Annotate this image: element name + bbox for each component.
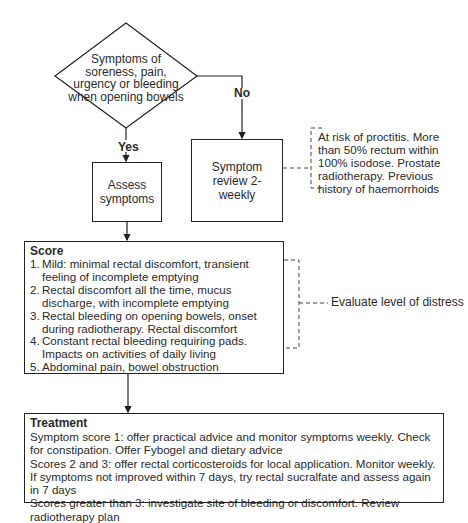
yes-label: Yes <box>118 140 139 154</box>
score-panel: Score 1. Mild: minimal rectal discomfort… <box>24 241 284 374</box>
treatment-line-3: Scores greater than 3: investigate site … <box>30 496 438 523</box>
score-item-4: 4. Constant rectal bleeding requiring pa… <box>30 335 278 361</box>
assess-symptoms-box: Assess symptoms <box>92 162 162 222</box>
treatment-line-2: Scores 2 and 3: offer rectal corticoster… <box>30 457 438 497</box>
score-item-2: 2. Rectal discomfort all the time, mucus… <box>30 284 278 310</box>
score-title: Score <box>30 244 278 258</box>
treatment-title: Treatment <box>30 416 438 430</box>
assess-symptoms-text: Assess symptoms <box>99 178 155 206</box>
risk-note: At risk of proctitis. More than 50% rect… <box>318 130 442 195</box>
decision-text: Symptoms of soreness, pain, urgency or b… <box>64 53 188 103</box>
distress-note: Evaluate level of distress <box>331 296 464 309</box>
treatment-panel: Treatment Symptom score 1: offer practic… <box>24 413 444 503</box>
score-item-1: 1. Mild: minimal rectal discomfort, tran… <box>30 258 278 284</box>
no-label: No <box>234 86 250 100</box>
symptom-review-box: Symptom review 2-weekly <box>191 139 283 222</box>
treatment-line-1: Symptom score 1: offer practical advice … <box>30 430 438 457</box>
symptom-review-text: Symptom review 2-weekly <box>196 160 278 202</box>
score-item-5: 5. Abdominal pain, bowel obstruction <box>30 361 278 374</box>
score-item-3: 3. Rectal bleeding on opening bowels, on… <box>30 310 278 336</box>
